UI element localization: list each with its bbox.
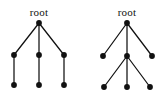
right-tree-edge-R-root-to-R-c3 bbox=[127, 23, 152, 56]
left-tree-grandchild-node-3 bbox=[61, 82, 67, 88]
right-tree-child-node-3 bbox=[149, 53, 155, 59]
left-tree-root-node bbox=[36, 20, 42, 26]
right-tree-root-node bbox=[124, 20, 130, 26]
right-tree-edge-R-c2-to-R-g1 bbox=[104, 56, 127, 87]
left-tree-root-label: root bbox=[30, 6, 49, 18]
left-tree-child-node-3 bbox=[61, 52, 67, 58]
left-tree-edge-L-root-to-L-c1 bbox=[14, 23, 39, 55]
labels-layer: rootroot bbox=[30, 6, 137, 18]
left-tree-grandchild-node-2 bbox=[36, 82, 42, 88]
right-tree-root-label: root bbox=[118, 6, 137, 18]
right-tree-child-node-2 bbox=[124, 53, 130, 59]
trees-canvas: rootroot bbox=[0, 0, 160, 93]
right-tree-edge-R-c2-to-R-g3 bbox=[127, 56, 150, 87]
edges-layer bbox=[14, 23, 152, 87]
left-tree-edge-L-root-to-L-c3 bbox=[39, 23, 64, 55]
right-tree-grandchild-node-1 bbox=[101, 84, 107, 90]
left-tree-child-node-1 bbox=[11, 52, 17, 58]
right-tree-child-node-1 bbox=[100, 53, 106, 59]
left-tree-child-node-2 bbox=[36, 52, 42, 58]
left-tree-grandchild-node-1 bbox=[11, 82, 17, 88]
right-tree-edge-R-root-to-R-c1 bbox=[103, 23, 127, 56]
tree-diagram-figure: rootroot bbox=[0, 0, 160, 93]
right-tree-grandchild-node-2 bbox=[124, 84, 130, 90]
right-tree-grandchild-node-3 bbox=[147, 84, 153, 90]
